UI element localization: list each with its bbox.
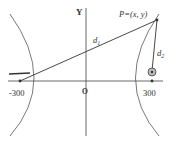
y-axis-label: Y [76, 7, 83, 17]
origin-label: O [82, 87, 88, 96]
point-p-dot [156, 19, 159, 22]
left-hyperbola-branch [10, 14, 34, 136]
right-focus-label: 300 [143, 88, 156, 98]
receiver-marker-center [151, 71, 153, 73]
left-focus-dot [19, 80, 22, 83]
hyperbola-diagram: Y P=(x, y) d1 d2 -300 O 300 [0, 0, 173, 145]
left-arrow-stroke [9, 73, 30, 74]
right-focus-dot [151, 80, 154, 83]
left-focus-label: -300 [9, 88, 25, 98]
d1-line [20, 20, 157, 81]
d2-line [152, 20, 157, 71]
d2-label: d2 [157, 48, 164, 59]
point-p-label: P=(x, y) [118, 9, 148, 19]
d1-label: d1 [93, 35, 100, 46]
